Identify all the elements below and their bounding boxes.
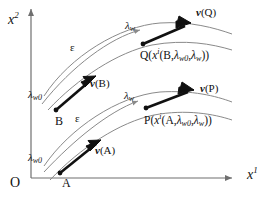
- epsilon-label-upper: ε: [70, 42, 75, 53]
- vector-label-vQ: v(Q): [196, 7, 216, 18]
- vector-label-vB: v(B): [90, 78, 110, 89]
- point-B-label: B: [55, 115, 63, 127]
- x-axis-label: x1: [247, 168, 258, 182]
- vector-label-vP: v(P): [200, 83, 218, 94]
- lambda-w0-label-B: λw0: [28, 89, 42, 100]
- point-Q-expression: Q(xi(B,λw0,λw)): [140, 50, 209, 62]
- lambda-w0-label-A: λw0: [28, 152, 42, 163]
- lambda-w-label-lower: λw: [124, 90, 134, 101]
- vector-field-diagram: x2 x1 O λw0 λw0 λw λw ε ε B A v(A) v(B) …: [0, 0, 280, 200]
- point-A-label: A: [62, 177, 71, 189]
- point-P-expression: P(xi(A,λw0,λw)): [144, 115, 212, 127]
- lower-integral-curves: [44, 92, 232, 180]
- lower-curve-lambda-arrow: [44, 101, 138, 172]
- y-axis-label: x2: [8, 13, 19, 27]
- origin-label: O: [10, 176, 20, 190]
- vector-vQ: [143, 16, 191, 44]
- vector-label-vA: v(A): [95, 145, 115, 156]
- epsilon-label-lower: ε: [75, 113, 80, 124]
- lower-curve-outer: [44, 92, 232, 166]
- vector-vP: [146, 82, 194, 108]
- lambda-w-label-upper: λw: [125, 20, 135, 31]
